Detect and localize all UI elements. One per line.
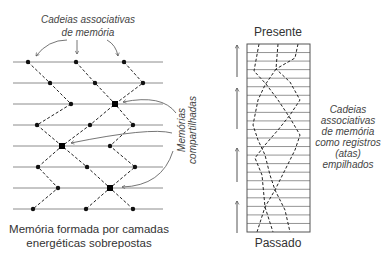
pointer-arrow-icon — [123, 100, 176, 113]
records-label-line4: como registros — [315, 137, 381, 148]
records-label-line6: empilhados — [322, 159, 373, 170]
records-label: Cadeias associativas de memória como reg… — [315, 104, 381, 170]
records-label-line3: de memória — [322, 126, 375, 137]
energy-layers — [13, 62, 163, 209]
past-label: Passado — [255, 236, 302, 250]
pointer-arrow-icon — [122, 151, 173, 187]
memory-node — [131, 207, 135, 211]
memory-node — [133, 165, 137, 169]
present-label: Presente — [254, 25, 302, 39]
left-caption-line1: Memória formada por camadas — [9, 223, 169, 235]
shared-memories-label-line1: Memórias — [176, 108, 187, 152]
shared-memories-label: Memórias compartilhadas — [176, 96, 198, 164]
right-panel: Presente Passado Cadeias associativas de… — [237, 25, 381, 250]
memory-diagram: Cadeias associativas de memória Memórias… — [0, 0, 388, 262]
records-label-line1: Cadeias — [330, 104, 367, 115]
memory-node — [88, 123, 92, 127]
memory-node — [74, 60, 78, 64]
chain-pointer-arrows — [36, 40, 118, 56]
memory-chain — [28, 62, 133, 209]
diagram-canvas: Cadeias associativas de memória Memórias… — [0, 0, 388, 262]
shared-memory-node — [107, 185, 113, 191]
memory-node — [48, 81, 52, 85]
shared-memory-node — [112, 101, 118, 107]
shared-memory-node — [59, 143, 65, 149]
records-label-line2: associativas — [321, 115, 375, 126]
memory-node — [31, 207, 35, 211]
memory-node — [56, 186, 60, 190]
memory-node — [141, 81, 145, 85]
memory-node — [26, 60, 30, 64]
memory-node — [36, 165, 40, 169]
left-panel: Cadeias associativas de memória Memórias… — [9, 14, 198, 249]
associative-chains-label-line1: Cadeias associativas — [41, 14, 135, 25]
associative-chains-label-line2: de memória — [62, 27, 115, 38]
memory-node — [108, 144, 112, 148]
memory-node — [131, 123, 135, 127]
records-label-line5: (atas) — [335, 148, 361, 159]
shared-memories-label-line2: compartilhadas — [187, 96, 198, 164]
stacked-records — [247, 53, 310, 224]
memory-node — [35, 123, 39, 127]
shared-pointer-arrows — [71, 100, 176, 187]
memory-node — [84, 207, 88, 211]
memory-node — [122, 60, 126, 64]
pointer-arrow-icon — [36, 40, 67, 56]
memory-node — [85, 165, 89, 169]
pointer-arrow-icon — [71, 131, 172, 143]
left-caption-line2: energéticas sobrepostas — [26, 237, 152, 249]
memory-node — [69, 102, 73, 106]
pointer-arrow-icon — [107, 40, 118, 56]
memory-node — [93, 81, 97, 85]
